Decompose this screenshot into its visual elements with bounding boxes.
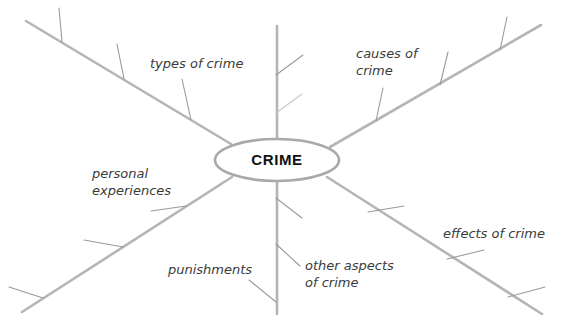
twig-personal-2 [84, 240, 123, 247]
twig-types-2 [117, 44, 124, 79]
label-causes-of-crime-line1: causes of [356, 46, 420, 61]
label-personal-experiences-line2: experiences [92, 183, 171, 198]
branch-line-effects-of-crime [327, 177, 542, 314]
mind-map-svg: CRIME types of crime causes of crime per… [0, 0, 564, 331]
label-causes-of-crime-line2: crime [356, 63, 393, 78]
center-node[interactable]: CRIME [215, 139, 339, 181]
branch-line-types-of-crime [26, 21, 231, 144]
twig-punishments-1 [249, 280, 276, 302]
label-types-of-crime: types of crime [150, 56, 243, 71]
label-personal-experiences-line1: personal [91, 166, 149, 181]
twig-effects-3 [508, 287, 545, 297]
twig-upper-stem-2 [276, 94, 302, 113]
label-other-aspects-of-crime-line2: of crime [305, 275, 358, 290]
twig-effects-2 [447, 250, 484, 259]
twig-upper-stem-1 [276, 55, 303, 75]
center-node-label: CRIME [251, 151, 302, 168]
label-other-aspects-of-crime-line1: other aspects [305, 258, 394, 273]
label-punishments: punishments [167, 262, 252, 277]
twig-other-aspects-1 [276, 198, 302, 218]
twig-types-3 [59, 8, 62, 42]
twig-other-aspects-2 [276, 244, 300, 266]
branch-line-causes-of-crime [330, 25, 541, 147]
mind-map-canvas: CRIME types of crime causes of crime per… [0, 0, 564, 331]
twig-personal-3 [9, 287, 43, 298]
label-effects-of-crime: effects of crime [443, 226, 545, 241]
twig-types-1 [182, 79, 191, 120]
